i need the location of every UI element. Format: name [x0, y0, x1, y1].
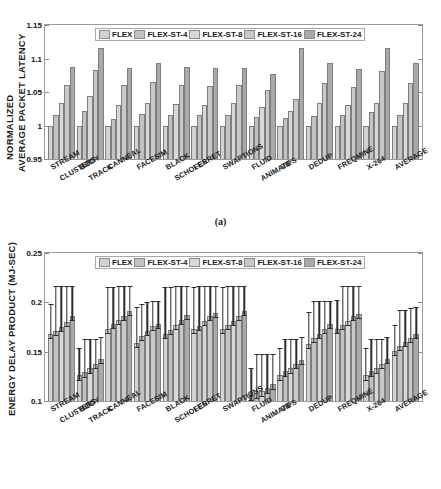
y-axis-tick-mark [45, 253, 49, 254]
legend-item-flex[interactable]: FLEX [99, 258, 132, 267]
error-bar-cap-upper [226, 286, 231, 287]
error-bar-line [308, 313, 309, 349]
error-bar-cap-upper [59, 286, 64, 287]
error-bar-cap-upper [116, 286, 121, 287]
legend-item-flex-st-8[interactable]: FLEX-ST-8 [189, 30, 242, 39]
legend-label: FLEX-ST-24 [317, 258, 361, 267]
error-bar-cap-lower [242, 315, 247, 316]
error-bar-cap-upper [127, 286, 132, 287]
error-bar-cap-upper [356, 286, 361, 287]
error-bar-cap-upper [249, 368, 254, 369]
caption-a: (a) [0, 216, 441, 227]
error-bar-line [285, 340, 286, 377]
bar-group [335, 253, 362, 401]
error-bar-line [193, 288, 194, 334]
y-axis-tick-label: 0.2 [31, 298, 42, 307]
legend-item-flex-st-16[interactable]: FLEX-ST-16 [244, 258, 301, 267]
error-bar-cap-upper [202, 286, 207, 287]
error-bar-line [72, 287, 73, 321]
legend-item-flex-st-24[interactable]: FLEX-ST-24 [304, 258, 361, 267]
error-bar-line [387, 338, 388, 364]
error-bar-line [175, 287, 176, 330]
error-bar-line [55, 287, 56, 336]
error-bar-cap-upper [163, 287, 168, 288]
error-bar-line [279, 349, 280, 381]
error-bar-cap-upper [351, 286, 356, 287]
error-bar-cap-upper [414, 307, 419, 308]
error-bar-line [152, 302, 153, 331]
error-bar-line [371, 340, 372, 377]
error-bar-cap-upper [346, 286, 351, 287]
y-axis-tick-label: 1.15 [26, 21, 42, 30]
error-bar-line [170, 288, 171, 335]
bar-flex-st-24 [213, 68, 218, 159]
error-bar-cap-upper [179, 286, 184, 287]
error-bar-cap-upper [236, 286, 241, 287]
bar-groups-a [45, 25, 422, 159]
error-bar-cap-upper [70, 286, 75, 287]
bar-flex-st-24 [242, 311, 247, 401]
bar-flex-st-24 [156, 324, 161, 401]
error-bar-cap-upper [122, 286, 127, 287]
bar-flex-st-24 [213, 313, 218, 401]
error-bar-cap-upper [184, 286, 189, 287]
bar-flex-st-24 [385, 359, 390, 401]
y-axis-tick-mark [418, 302, 422, 303]
legend-item-flex-st-24[interactable]: FLEX-ST-24 [304, 30, 361, 39]
bar-group [77, 253, 104, 401]
error-bar-cap-upper [208, 286, 213, 287]
error-bar-line [342, 287, 343, 330]
bar-flex-st-24 [270, 74, 275, 159]
error-bar-cap-upper [156, 301, 161, 302]
error-bar-line [347, 287, 348, 326]
bar-group [48, 253, 75, 401]
error-bar-line [295, 340, 296, 369]
bar-group [335, 25, 362, 159]
error-bar-cap-upper [363, 348, 368, 349]
y-axis-tick-mark [45, 401, 49, 402]
error-bar-cap-upper [82, 339, 87, 340]
y-axis-tick-mark [45, 352, 49, 353]
legend-swatch-icon [304, 30, 315, 39]
error-bar-cap-upper [385, 337, 390, 338]
plot-area-a: 0.9511.051.11.15 [44, 24, 423, 160]
y-axis-label-a-line2: AVERAGE PACKET LATENCY [16, 34, 27, 172]
bar-group [363, 25, 390, 159]
error-bar-line [89, 340, 90, 374]
bar-flex-st-24 [385, 48, 390, 159]
error-bar-line [353, 287, 354, 321]
error-bar-line [272, 355, 273, 390]
error-bar-cap-upper [220, 287, 225, 288]
error-bar-line [238, 287, 239, 321]
bar-group [249, 253, 276, 401]
error-bar-cap-upper [111, 287, 116, 288]
bar-group [220, 253, 247, 401]
legend-item-flex-st-16[interactable]: FLEX-ST-16 [244, 30, 301, 39]
legend-swatch-icon [244, 30, 255, 39]
bar-group [277, 25, 304, 159]
error-bar-cap-upper [150, 301, 155, 302]
y-axis-tick-label: 1.05 [26, 88, 42, 97]
legend-item-flex-st-4[interactable]: FLEX-ST-4 [134, 30, 187, 39]
error-bar-line [50, 305, 51, 339]
y-axis-tick-mark [45, 25, 49, 26]
legend-swatch-icon [134, 258, 145, 267]
bar-group [191, 253, 218, 401]
legend-item-flex-st-4[interactable]: FLEX-ST-4 [134, 258, 187, 267]
error-bar-line [66, 287, 67, 327]
bar-flex-st-24 [70, 316, 75, 401]
legend-item-flex-st-8[interactable]: FLEX-ST-8 [189, 258, 242, 267]
legend-label: FLEX-ST-8 [202, 30, 242, 39]
legend-a: FLEXFLEX-ST-4FLEX-ST-8FLEX-ST-16FLEX-ST-… [95, 28, 365, 41]
bar-flex-st-24 [127, 311, 132, 401]
y-axis-tick-mark [418, 352, 422, 353]
error-bar-line [222, 288, 223, 334]
legend-item-flex[interactable]: FLEX [99, 30, 132, 39]
error-bar-cap-upper [265, 354, 270, 355]
error-bar-cap-lower [156, 328, 161, 329]
y-axis-tick-mark [45, 92, 49, 93]
error-bar-line [337, 301, 338, 334]
error-bar-cap-upper [294, 339, 299, 340]
error-bar-line [204, 287, 205, 326]
error-bar-line [209, 287, 210, 321]
